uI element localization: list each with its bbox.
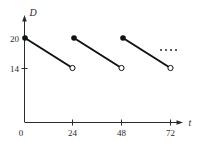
segment-1 (22, 35, 75, 70)
x-tick-label-72: 72 (166, 128, 175, 138)
x-axis-label: t (189, 117, 192, 128)
axes-group (22, 15, 183, 125)
data-series-group (22, 35, 173, 70)
y-tick-label-20: 20 (10, 34, 20, 44)
segment-2-line (74, 38, 122, 68)
drug-decay-chart: D t 14 20 0 24 48 72 (0, 0, 197, 142)
ellipsis-dot-2 (165, 49, 167, 51)
segment-2-end-open-circle (119, 65, 124, 70)
segment-3-end-open-circle (168, 65, 173, 70)
y-axis-label: D (28, 7, 37, 18)
segment-2 (71, 35, 124, 70)
segment-1-end-open-circle (70, 65, 75, 70)
chart-canvas: D t 14 20 0 24 48 72 (0, 0, 197, 142)
x-tick-label-24: 24 (68, 128, 78, 138)
segment-3-start-filled-dot (120, 35, 126, 41)
ellipsis-dot-4 (175, 49, 177, 51)
x-axis-arrowhead (177, 120, 184, 125)
x-tick-label-0: 0 (19, 128, 24, 138)
segment-1-start-filled-dot (22, 35, 28, 41)
ellipsis-dot-3 (170, 49, 172, 51)
segment-2-start-filled-dot (71, 35, 77, 41)
segment-1-line (25, 38, 73, 68)
x-tick-label-48: 48 (117, 128, 127, 138)
segment-3 (120, 35, 173, 70)
continuation-ellipsis (160, 49, 177, 51)
y-axis-arrowhead (22, 15, 27, 22)
segment-3-line (123, 38, 171, 68)
ellipsis-dot-1 (160, 49, 162, 51)
y-tick-label-14: 14 (10, 64, 20, 74)
